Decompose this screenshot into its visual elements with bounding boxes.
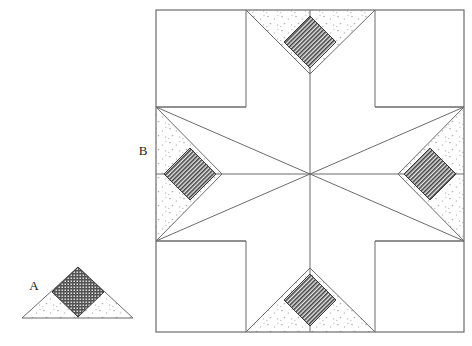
star-block-group: B [139,10,464,332]
label-a: A [29,278,39,293]
diagram-canvas: A [0,0,472,346]
figure-root: A [0,0,472,346]
label-b: B [139,143,148,158]
small-figure-a-group: A [22,267,133,318]
